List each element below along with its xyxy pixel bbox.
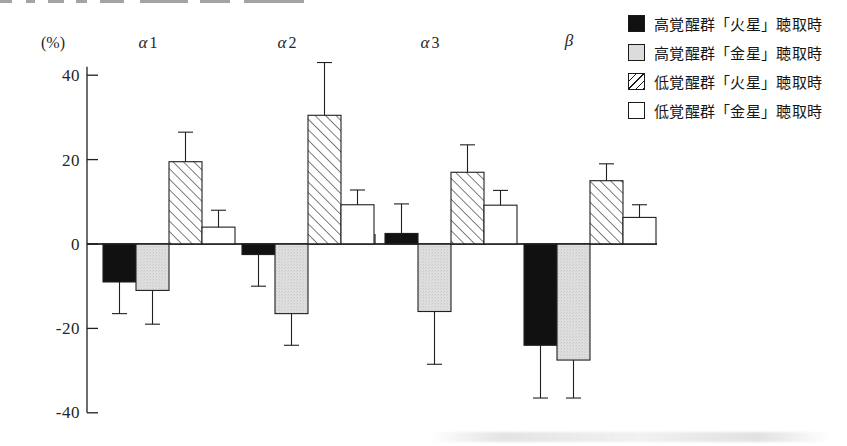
group-label-alpha3-sub: 3: [429, 34, 439, 51]
bar-α2-series2: [308, 115, 341, 244]
bar-α3-series1: [418, 244, 451, 312]
bar-α3-series0: [385, 233, 418, 244]
bar-β-series3: [623, 217, 656, 244]
group-label-alpha1-sub: 1: [147, 34, 157, 51]
y-axis-tick-label-20: 20: [30, 151, 80, 171]
legend-label-1: 高覚醒群「金星」聴取時: [654, 42, 822, 63]
bar-α2-series1: [275, 244, 308, 314]
bar-α2-series0: [242, 244, 275, 255]
group-label-alpha1: α1: [118, 33, 178, 53]
bar-α3-series3: [484, 205, 517, 244]
bar-β-series1: [557, 244, 590, 360]
bar-α1-series0: [103, 244, 136, 282]
bar-β-series2: [590, 181, 623, 244]
bar-α2-series3: [341, 205, 374, 244]
group-label-alpha2-sub: 2: [286, 34, 296, 51]
y-axis-tick-label-neg20: -20: [20, 319, 80, 339]
legend-item-0: 高覚醒群「火星」聴取時: [628, 10, 843, 36]
group-label-alpha2: α2: [257, 33, 317, 53]
scan-artifact-bottom: [430, 432, 830, 442]
group-label-alpha3: α3: [400, 33, 460, 53]
y-axis-tick-label-neg40: -40: [20, 403, 80, 423]
legend-swatch-light-gray: [628, 44, 645, 61]
bar-α1-series1: [136, 244, 169, 290]
legend-item-2: 低覚醒群「火星」聴取時: [628, 68, 843, 94]
y-axis-tick-label-0: 0: [30, 235, 80, 255]
bar-α1-series2: [169, 162, 202, 244]
y-axis-unit-label: (%): [41, 34, 65, 52]
bar-β-series0: [524, 244, 557, 345]
group-label-beta-sub: [573, 32, 575, 49]
legend-swatch-white: [628, 102, 645, 119]
group-label-beta-greek: β: [565, 31, 573, 50]
legend-label-3: 低覚醒群「金星」聴取時: [654, 100, 822, 121]
legend-label-0: 高覚醒群「火星」聴取時: [654, 13, 822, 34]
bar-α1-series3: [202, 227, 235, 244]
group-label-beta: β: [540, 31, 600, 51]
y-axis-tick-label-40: 40: [30, 66, 80, 86]
figure-bar-chart-eeg-arousal: (%) 40 20 0 -20 -40 α1 α2 α3 β 高覚醒群「火星」聴…: [0, 0, 847, 446]
legend-swatch-solid-black: [628, 15, 645, 32]
legend-item-3: 低覚醒群「金星」聴取時: [628, 97, 843, 123]
legend-item-1: 高覚醒群「金星」聴取時: [628, 39, 843, 65]
chart-legend: 高覚醒群「火星」聴取時 高覚醒群「金星」聴取時 低覚醒群「火星」聴取時 低覚醒群…: [628, 10, 843, 126]
bar-α3-series2: [451, 172, 484, 244]
legend-swatch-diagonal-hatch: [628, 73, 645, 90]
legend-label-2: 低覚醒群「火星」聴取時: [654, 71, 822, 92]
